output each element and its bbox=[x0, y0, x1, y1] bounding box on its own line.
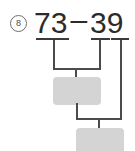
answer-box-first-step[interactable] bbox=[53, 77, 101, 105]
bracket-one-horizontal-bar bbox=[53, 68, 101, 70]
equation-row: 73–39 bbox=[34, 7, 132, 39]
problem-number-label: 8 bbox=[16, 19, 21, 28]
minus-operator: – bbox=[67, 4, 90, 36]
answer-box-final-result[interactable] bbox=[76, 128, 124, 151]
subtraction-decomposition-problem: 8 73–39 bbox=[0, 0, 135, 151]
minuend-digits: 73 bbox=[34, 7, 67, 39]
bracket-two-right-stroke bbox=[120, 40, 122, 120]
bracket-one-right-stroke bbox=[99, 40, 101, 69]
subtrahend-tens-digit: 3 bbox=[90, 7, 107, 39]
bracket-one-left-stroke bbox=[53, 40, 55, 69]
problem-number-badge: 8 bbox=[10, 15, 27, 32]
subtrahend-ones-digit: 9 bbox=[107, 7, 124, 39]
